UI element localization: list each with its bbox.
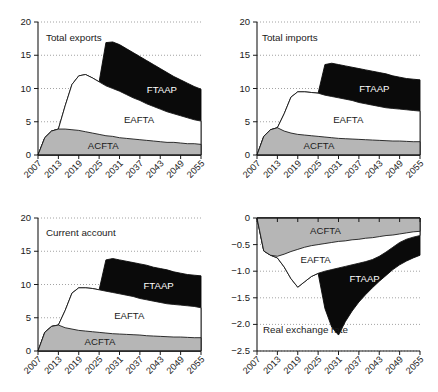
panel-total-exports: 05101520 2007201320192025203120372043204…	[0, 0, 219, 196]
x-tick-label: 2025	[302, 158, 324, 180]
panel-total-exports-svg: 05101520 2007201320192025203120372043204…	[0, 0, 219, 196]
x-tick-label: 2019	[282, 158, 304, 180]
panel-current-account-svg: 05101520 2007201320192025203120372043204…	[0, 196, 219, 392]
x-tick-label: 2025	[302, 354, 324, 376]
x-tick-label: 2031	[103, 354, 125, 376]
x-tick-label: 2019	[63, 354, 85, 376]
x-tick-label: 2019	[63, 158, 85, 180]
band-label-acfta: ACFTA	[304, 140, 335, 151]
y-tick-label: 15	[239, 49, 250, 60]
yticks-current-account: 05101520	[20, 212, 38, 356]
x-tick-label: 2043	[363, 158, 385, 180]
x-tick-label: 2055	[404, 158, 426, 180]
band-label-acfta: ACFTA	[310, 225, 341, 236]
areas-total-imports	[257, 63, 420, 155]
x-tick-label: 2037	[343, 354, 365, 376]
band-label-acfta: ACFTA	[85, 336, 116, 347]
x-tick-label: 2049	[384, 354, 406, 376]
yticks-total-imports: 05101520	[239, 16, 257, 160]
x-tick-label: 2037	[124, 354, 146, 376]
y-tick-label: −1.5	[231, 292, 250, 303]
yticks-total-exports: 05101520	[20, 16, 38, 160]
y-tick-label: 0	[245, 212, 250, 223]
areas-current-account	[38, 259, 201, 351]
band-label-ftaap: FTAAP	[359, 83, 389, 94]
panel-total-imports: 05101520 2007201320192025203120372043204…	[219, 0, 438, 196]
band-label-eafta: EAFTA	[114, 310, 145, 321]
y-tick-label: 5	[26, 116, 31, 127]
y-tick-label: −2.5	[231, 345, 250, 356]
x-tick-label: 2019	[282, 354, 304, 376]
band-label-eafta: EAFTA	[333, 114, 364, 125]
x-tick-label: 2007	[22, 158, 44, 180]
x-tick-label: 2043	[144, 354, 166, 376]
y-tick-label: −0.5	[231, 239, 250, 250]
xticks-current-account: 200720132019202520312037204320492055	[22, 351, 207, 376]
x-tick-label: 2049	[384, 158, 406, 180]
x-tick-label: 2013	[42, 158, 64, 180]
x-tick-label: 2007	[241, 354, 263, 376]
x-tick-label: 2007	[241, 158, 263, 180]
x-tick-label: 2043	[144, 158, 166, 180]
yticks-real-exchange-rate: −2.5−2.0−1.5−1.0−0.50	[231, 212, 257, 356]
y-tick-label: 20	[20, 16, 31, 27]
y-tick-label: 15	[20, 245, 31, 256]
band-label-eafta: EAFTA	[124, 114, 155, 125]
y-tick-label: 10	[239, 83, 250, 94]
x-tick-label: 2025	[83, 354, 105, 376]
y-tick-label: 5	[245, 116, 250, 127]
panel-real-exchange-rate-svg: −2.5−2.0−1.5−1.0−0.50 200720132019202520…	[219, 196, 438, 392]
y-tick-label: 20	[20, 212, 31, 223]
x-tick-label: 2031	[103, 158, 125, 180]
y-tick-label: 0	[245, 149, 250, 160]
panel-real-exchange-rate: −2.5−2.0−1.5−1.0−0.50 200720132019202520…	[219, 196, 438, 392]
y-tick-label: 10	[20, 279, 31, 290]
band-label-ftaap: FTAAP	[147, 84, 177, 95]
x-tick-label: 2049	[165, 354, 187, 376]
x-tick-label: 2013	[42, 354, 64, 376]
x-tick-label: 2055	[185, 158, 207, 180]
x-tick-label: 2037	[343, 158, 365, 180]
band-label-ftaap: FTAAP	[349, 273, 379, 284]
panel-title-real-exchange-rate: Real exchange rate	[263, 324, 349, 335]
x-tick-label: 2037	[124, 158, 146, 180]
areas-total-exports	[38, 42, 201, 155]
y-tick-label: 15	[20, 49, 31, 60]
panel-current-account: 05101520 2007201320192025203120372043204…	[0, 196, 219, 392]
panel-title-total-imports: Total imports	[262, 32, 318, 43]
x-tick-label: 2055	[185, 354, 207, 376]
x-tick-label: 2043	[363, 354, 385, 376]
x-tick-label: 2007	[22, 354, 44, 376]
x-tick-label: 2025	[83, 158, 105, 180]
x-tick-label: 2013	[261, 354, 283, 376]
panel-title-total-exports: Total exports	[46, 32, 102, 43]
xticks-total-exports: 200720132019202520312037204320492055	[22, 155, 207, 180]
y-tick-label: 0	[26, 149, 31, 160]
y-tick-label: −2.0	[231, 318, 250, 329]
x-tick-label: 2013	[261, 158, 283, 180]
y-tick-label: 0	[26, 345, 31, 356]
y-tick-label: 5	[26, 312, 31, 323]
y-tick-label: −1.0	[231, 265, 250, 276]
y-tick-label: 20	[239, 16, 250, 27]
band-label-acfta: ACFTA	[88, 140, 119, 151]
panel-title-current-account: Current account	[46, 227, 116, 238]
x-tick-label: 2031	[322, 158, 344, 180]
band-label-eafta: EAFTA	[301, 254, 332, 265]
x-tick-label: 2049	[165, 158, 187, 180]
x-tick-label: 2031	[322, 354, 344, 376]
x-tick-label: 2055	[404, 354, 426, 376]
y-tick-label: 10	[20, 83, 31, 94]
figure-four-panel-area-charts: 05101520 2007201320192025203120372043204…	[0, 0, 438, 392]
panel-total-imports-svg: 05101520 2007201320192025203120372043204…	[219, 0, 438, 196]
xticks-total-imports: 200720132019202520312037204320492055	[241, 155, 426, 180]
band-label-ftaap: FTAAP	[144, 280, 174, 291]
